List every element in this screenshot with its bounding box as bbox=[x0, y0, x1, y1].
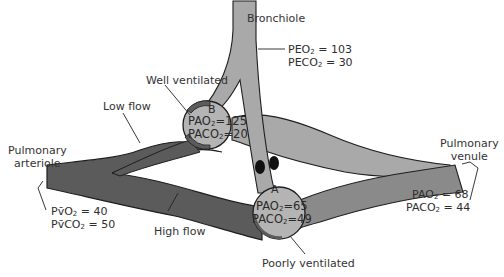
pulmonary-arteriole-label: Pulmonary arteriole bbox=[8, 144, 67, 170]
poorly-ventilated-label: Poorly ventilated bbox=[262, 257, 355, 270]
po2-value: 68 bbox=[455, 188, 469, 201]
arteriole-pco2: Pv̄CO2 = 50 bbox=[51, 218, 115, 234]
pco2-value: 20 bbox=[233, 127, 248, 141]
po2-value: 65 bbox=[293, 199, 308, 213]
pulmonary-venule-label: Pulmonary venule bbox=[440, 137, 499, 163]
equals: = bbox=[438, 188, 454, 201]
label-line-2: venule bbox=[440, 150, 499, 163]
pco2-label: PECO bbox=[288, 56, 318, 69]
po2-label: PAO bbox=[256, 199, 279, 213]
bronchiole-pco2: PECO2 = 30 bbox=[288, 56, 353, 72]
airway-constriction-right bbox=[269, 156, 279, 170]
po2-label: Pv̄O bbox=[51, 205, 73, 218]
pco2-value: 49 bbox=[297, 212, 312, 226]
low-flow-label: Low flow bbox=[103, 100, 151, 113]
po2-value: 125 bbox=[225, 114, 247, 128]
pco2-value: 44 bbox=[456, 201, 470, 214]
pco2-label: PACO bbox=[252, 212, 283, 226]
alveolus-a-pco2: PACO2=49 bbox=[252, 213, 312, 229]
pco2-label: Pv̄CO bbox=[51, 218, 80, 231]
po2-label: PAO bbox=[412, 188, 434, 201]
pco2-label: PACO bbox=[406, 201, 436, 214]
pco2-value: 50 bbox=[101, 218, 115, 231]
equals: = bbox=[315, 43, 331, 56]
label-line-1: Pulmonary bbox=[440, 137, 499, 150]
po2-value: 40 bbox=[94, 205, 108, 218]
ventilation-perfusion-diagram bbox=[0, 0, 504, 277]
equals: = bbox=[322, 56, 338, 69]
equals: = bbox=[85, 218, 101, 231]
well-ventilated-label: Well ventilated bbox=[146, 74, 228, 87]
equals: = bbox=[77, 205, 93, 218]
pco2-label: PACO bbox=[188, 127, 219, 141]
subscript: 2 bbox=[283, 218, 287, 226]
po2-value: 103 bbox=[331, 43, 352, 56]
bronchiole-label: Bronchiole bbox=[247, 12, 305, 25]
high-flow-label: High flow bbox=[154, 225, 205, 238]
label-line-2: arteriole bbox=[8, 157, 67, 170]
pco2-value: 30 bbox=[339, 56, 353, 69]
equals: = bbox=[440, 201, 456, 214]
po2-label: PEO bbox=[288, 43, 310, 56]
airway-constriction-left bbox=[255, 160, 265, 174]
label-line-1: Pulmonary bbox=[8, 144, 67, 157]
subscript: 2 bbox=[219, 133, 223, 141]
alveolus-a-letter: A bbox=[271, 183, 279, 196]
po2-label: PAO bbox=[188, 114, 211, 128]
alveolus-b-pco2: PACO2=20 bbox=[188, 128, 248, 144]
venule-pco2: PACO2 = 44 bbox=[406, 201, 470, 217]
